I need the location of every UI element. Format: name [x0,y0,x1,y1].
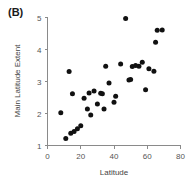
data-point [82,96,87,101]
y-axis-ticks: 12345 [37,14,47,151]
data-point [67,69,72,74]
data-point [103,64,108,69]
y-tick-label: 4 [37,46,42,55]
data-point [160,27,165,32]
data-point [128,77,133,82]
x-tick-label: 40 [110,152,119,161]
y-tick-label: 2 [37,110,42,119]
x-tick-label: 0 [45,152,50,161]
y-tick-label: 1 [37,142,42,151]
data-point [118,61,123,66]
data-point [70,91,75,96]
data-point [107,81,112,86]
data-point [140,60,145,65]
data-point [63,136,68,141]
y-axis-title: Main Latitude Extent [13,44,22,118]
data-point [100,91,105,96]
data-point [92,89,97,94]
data-point [102,107,107,112]
data-point [87,91,92,96]
figure-panel-b: (B) 12345 020406080 Latitude Main Latitu… [0,0,193,182]
data-point [153,40,158,45]
y-tick-label: 5 [37,14,42,23]
data-point [136,64,141,69]
x-tick-label: 60 [143,152,152,161]
data-point [88,113,93,118]
x-tick-label: 80 [176,152,185,161]
data-point [155,28,160,33]
data-point [143,87,148,92]
data-point [146,66,151,71]
data-point [85,107,90,112]
data-point [78,123,83,128]
x-axis-title: Latitude [100,168,129,177]
y-tick-label: 3 [37,78,42,87]
scatter-plot: 12345 020406080 Latitude Main Latitude E… [0,0,193,182]
data-point [58,110,63,115]
data-points-layer [58,16,164,141]
data-point [113,94,118,99]
data-point [95,101,100,106]
x-axis-ticks: 020406080 [45,146,185,161]
data-point [151,69,156,74]
data-point [123,16,128,21]
data-point [112,100,117,105]
x-tick-label: 20 [76,152,85,161]
